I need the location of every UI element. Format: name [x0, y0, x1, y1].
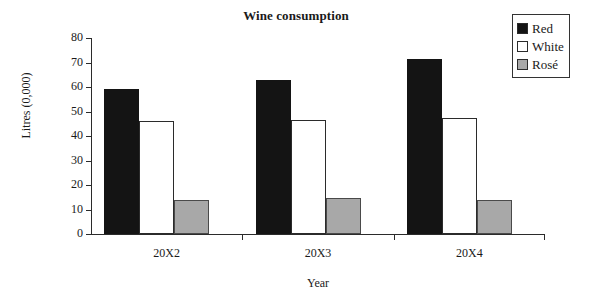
y-tick-label: 80: [53, 30, 83, 45]
legend-label-red: Red: [532, 22, 553, 35]
bar-20X3-white[interactable]: [291, 120, 326, 234]
x-axis-end-tick: [544, 234, 545, 240]
y-tick-label: 20: [53, 177, 83, 192]
y-axis-line: [91, 38, 92, 235]
x-category-label-20X2: 20X2: [91, 246, 242, 261]
y-tick-mark: [86, 234, 91, 235]
bar-20X4-white[interactable]: [442, 118, 477, 234]
x-category-label-20X4: 20X4: [394, 246, 545, 261]
chart-title: Wine consumption: [0, 8, 592, 24]
y-tick-mark: [86, 161, 91, 162]
x-axis-line: [91, 234, 545, 235]
y-tick-mark: [86, 87, 91, 88]
bar-20X2-rosé[interactable]: [174, 200, 209, 234]
bar-20X3-red[interactable]: [256, 80, 291, 234]
y-tick-label: 0: [53, 226, 83, 241]
y-tick-mark: [86, 185, 91, 186]
y-tick-mark: [86, 210, 91, 211]
bar-20X2-red[interactable]: [104, 89, 139, 234]
y-tick-mark: [86, 136, 91, 137]
y-tick-mark: [86, 112, 91, 113]
plot-area: 01020304050607080: [91, 38, 545, 234]
bar-20X2-white[interactable]: [139, 121, 174, 234]
y-tick-label: 50: [53, 104, 83, 119]
x-separator-tick: [242, 234, 243, 240]
y-axis-title: Litres (0,000): [19, 36, 34, 176]
bar-20X4-red[interactable]: [407, 59, 442, 234]
y-tick-mark: [86, 63, 91, 64]
legend-swatch-red-icon: [517, 23, 528, 34]
bar-20X3-rosé[interactable]: [326, 198, 361, 234]
y-tick-label: 40: [53, 128, 83, 143]
y-tick-label: 70: [53, 55, 83, 70]
bar-20X4-rosé[interactable]: [477, 200, 512, 234]
legend-item-red[interactable]: Red: [517, 19, 564, 37]
wine-consumption-chart: Wine consumption Red White Rosé Litres (…: [0, 0, 592, 305]
x-axis-title: Year: [91, 276, 545, 291]
x-category-label-20X3: 20X3: [242, 246, 393, 261]
y-tick-label: 30: [53, 153, 83, 168]
y-tick-label: 60: [53, 79, 83, 94]
x-separator-tick: [394, 234, 395, 240]
y-tick-mark: [86, 38, 91, 39]
y-tick-label: 10: [53, 202, 83, 217]
